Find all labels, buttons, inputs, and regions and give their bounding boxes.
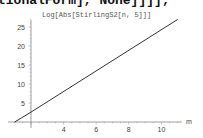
x-tick-label: 6 xyxy=(94,126,98,133)
tick-labels: 46810510152025 xyxy=(17,24,165,134)
axes xyxy=(8,19,182,128)
x-tick-label: 10 xyxy=(158,126,166,133)
x-axis-label: m xyxy=(186,118,192,125)
x-tick-label: 4 xyxy=(62,126,66,133)
data-line xyxy=(15,19,178,122)
x-tick-label: 8 xyxy=(127,126,131,133)
y-tick-label: 15 xyxy=(17,62,25,69)
y-tick-label: 25 xyxy=(17,24,25,31)
y-tick-label: 20 xyxy=(17,43,25,50)
line-chart: 46810510152025 m xyxy=(0,0,203,138)
y-tick-label: 10 xyxy=(17,81,25,88)
y-tick-label: 5 xyxy=(21,100,25,107)
